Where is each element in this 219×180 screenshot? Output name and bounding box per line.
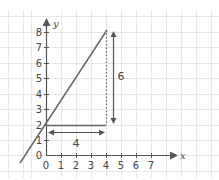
x-axis-label: x bbox=[180, 150, 186, 161]
rise-dimension-arrow bbox=[111, 31, 117, 124]
rise-label: 6 bbox=[118, 70, 125, 83]
svg-text:6: 6 bbox=[133, 160, 139, 171]
x-tick-labels: 0 1 2 3 4 5 6 7 bbox=[43, 160, 154, 171]
grid bbox=[0, 10, 219, 178]
svg-text:2: 2 bbox=[36, 120, 42, 131]
run-label: 4 bbox=[73, 137, 80, 150]
coordinate-graph: 0 1 2 3 4 5 6 7 0 1 2 3 4 5 6 7 8 x y 4 … bbox=[0, 0, 219, 180]
svg-text:8: 8 bbox=[36, 27, 42, 38]
svg-text:6: 6 bbox=[36, 58, 42, 69]
svg-text:3: 3 bbox=[36, 104, 42, 115]
svg-text:5: 5 bbox=[36, 73, 42, 84]
graph-line bbox=[20, 30, 107, 163]
svg-text:1: 1 bbox=[58, 160, 64, 171]
svg-text:0: 0 bbox=[43, 160, 49, 171]
svg-text:4: 4 bbox=[36, 89, 42, 100]
svg-text:2: 2 bbox=[73, 160, 79, 171]
svg-text:3: 3 bbox=[88, 160, 94, 171]
svg-text:0: 0 bbox=[36, 150, 42, 161]
y-tick-labels: 0 1 2 3 4 5 6 7 8 bbox=[36, 27, 42, 161]
svg-text:7: 7 bbox=[36, 42, 42, 53]
svg-text:4: 4 bbox=[103, 160, 109, 171]
svg-text:5: 5 bbox=[118, 160, 124, 171]
y-axis-label: y bbox=[52, 18, 59, 29]
svg-text:7: 7 bbox=[148, 160, 154, 171]
